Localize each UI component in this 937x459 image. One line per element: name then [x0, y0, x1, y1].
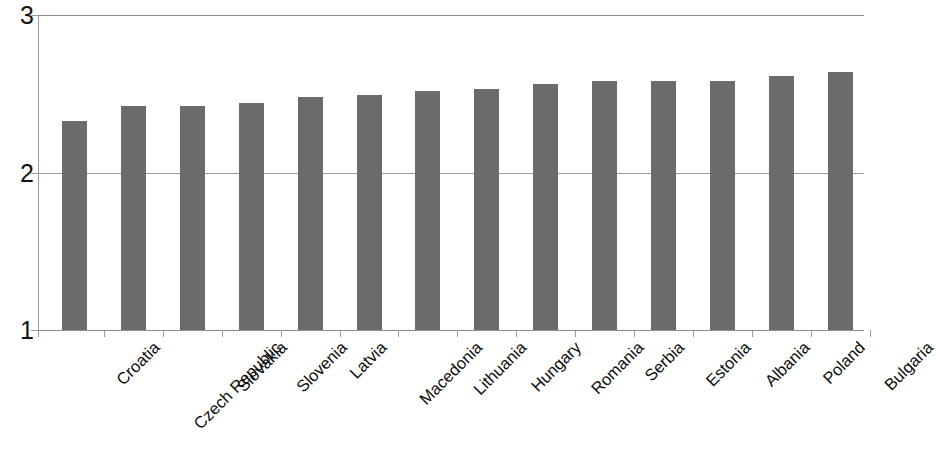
- bar: [415, 91, 440, 330]
- x-axis-category-label-text: Albania: [761, 338, 813, 390]
- bar: [592, 81, 617, 330]
- gridline-3: [38, 15, 864, 16]
- y-axis-tick-labels: 321: [0, 0, 34, 459]
- bar: [651, 81, 676, 330]
- x-axis-category-label: Hungary: [528, 338, 586, 396]
- bar: [62, 121, 87, 330]
- x-axis-category-label-text: Latvia: [345, 338, 390, 383]
- gridline-2: [38, 173, 864, 174]
- x-axis-category-label: Serbia: [641, 338, 688, 385]
- bar: [828, 72, 853, 330]
- x-axis-category-label: Croatia: [113, 338, 164, 389]
- x-axis-category-label: Slovenia: [292, 338, 350, 396]
- x-axis-category-label: Latvia: [345, 338, 390, 383]
- x-axis-category-label-text: Serbia: [641, 338, 688, 385]
- bar: [121, 106, 146, 330]
- x-axis-category-label: Albania: [761, 338, 813, 390]
- bar: [239, 103, 264, 330]
- bar: [474, 89, 499, 330]
- plot-area: [38, 15, 864, 330]
- bar: [533, 84, 558, 330]
- x-axis-category-label-text: Hungary: [528, 338, 586, 396]
- x-axis-category-label: Poland: [819, 338, 869, 388]
- bar: [357, 95, 382, 330]
- y-axis-tick-mark: [31, 330, 38, 331]
- x-axis-category-label-text: Estonia: [702, 338, 754, 390]
- x-axis-category-label: Romania: [588, 338, 648, 398]
- x-axis-category-label-text: Macedonia: [415, 338, 486, 409]
- y-axis-tick-label: 1: [6, 318, 34, 343]
- bar: [180, 106, 205, 330]
- y-axis-tick-mark: [31, 173, 38, 174]
- x-axis-category-label-text: Croatia: [113, 338, 164, 389]
- x-axis-tick-mark: [870, 330, 871, 337]
- y-axis-tick-mark: [31, 15, 38, 16]
- y-axis-tick-label: 2: [6, 160, 34, 185]
- y-axis-tick-label: 3: [6, 3, 34, 28]
- bar: [769, 76, 794, 330]
- x-axis-category-label-text: Slovenia: [292, 338, 350, 396]
- x-axis-category-label-text: Bulgaria: [880, 338, 936, 394]
- x-axis-category-label: Estonia: [702, 338, 754, 390]
- x-axis-category-label: Macedonia: [415, 338, 486, 409]
- x-axis-category-label-text: Romania: [588, 338, 648, 398]
- bar: [710, 81, 735, 330]
- x-axis-category-label: Bulgaria: [880, 338, 936, 394]
- bar: [298, 97, 323, 330]
- x-axis-category-label-text: Poland: [819, 338, 869, 388]
- x-axis-category-labels: CroatiaCzech RepublicSlovakiaSloveniaLat…: [38, 330, 864, 459]
